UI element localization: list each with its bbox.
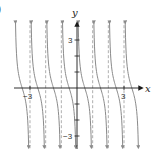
y-tick-label-neg3: −3	[63, 132, 73, 141]
curve-branch	[31, 22, 44, 147]
curve-branch	[125, 22, 138, 147]
curve-branch	[78, 22, 91, 147]
x-tick-label-neg3: −3	[23, 92, 33, 101]
curve-branch	[47, 22, 60, 147]
cotangent-graph: x y −3 3 3 −3	[0, 0, 156, 156]
curve-branch	[110, 22, 123, 147]
curve-branch	[16, 22, 29, 147]
curve-branch	[94, 22, 107, 147]
x-axis-label: x	[145, 83, 151, 94]
y-tick-label-3: 3	[68, 36, 73, 45]
x-tick-label-3: 3	[121, 92, 126, 101]
y-axis-label: y	[71, 7, 78, 18]
